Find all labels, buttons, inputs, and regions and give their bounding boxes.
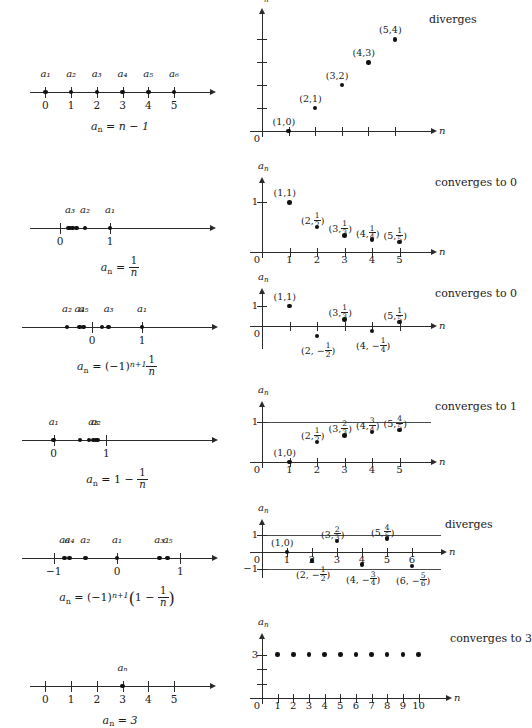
row-5-numberline: −101a₆a₄a₂a₁a₃a₅ xyxy=(22,558,212,559)
plot-point-label: (3,23) xyxy=(321,526,344,542)
number-line-tick-label: 1 xyxy=(94,447,118,459)
plot-x-tick-label: 1 xyxy=(279,254,301,265)
number-line-tick-label: 5 xyxy=(162,99,186,111)
plot-y-tick xyxy=(257,85,267,86)
plot-y-tick xyxy=(257,684,267,685)
number-line-point xyxy=(81,325,86,330)
number-line-tick xyxy=(174,681,175,692)
plot-point-label: (4,3) xyxy=(352,47,375,58)
y-axis-name: an xyxy=(258,384,269,397)
number-line-tick-label: 4 xyxy=(136,693,160,705)
plot-x-tick-label: 3 xyxy=(334,464,356,475)
plot-origin-label: 0 xyxy=(238,328,260,339)
plot-x-tick-label: 1 xyxy=(276,554,298,565)
y-axis-arrow-icon xyxy=(259,401,265,407)
plot-data-point xyxy=(340,83,345,88)
number-line-point xyxy=(95,90,100,95)
plot-data-point xyxy=(393,37,398,42)
plot-y-tick-label: 1 xyxy=(236,196,258,207)
number-line-arrow-icon xyxy=(210,89,216,95)
plot-y-tick xyxy=(257,422,267,423)
x-axis-arrow-icon xyxy=(431,128,437,134)
plot-y-tick xyxy=(257,655,267,656)
plot-origin-label: 0 xyxy=(238,254,260,265)
plot-point-label: (3,13) xyxy=(329,220,352,236)
number-line-point xyxy=(108,226,113,231)
number-line-point xyxy=(74,226,79,231)
number-line-tick-label: 0 xyxy=(80,334,104,346)
row-3-formula: an = (−1)n+11n xyxy=(0,355,237,377)
plot-data-point xyxy=(310,558,315,563)
plot-y-tick xyxy=(257,62,267,63)
row-6-verdict: converges to 3 xyxy=(450,632,532,645)
number-line-point-label: a₃ xyxy=(96,303,122,314)
x-axis-name: n xyxy=(449,546,455,557)
plot-point-label: (5,45) xyxy=(384,415,407,431)
plot-x-axis xyxy=(250,131,431,132)
plot-data-point xyxy=(287,304,292,309)
number-line-point-label: a₁ xyxy=(129,303,155,314)
x-axis-name: n xyxy=(439,246,445,257)
number-line-point-label: a₁ xyxy=(104,534,130,545)
plot-point-label: (4, −14) xyxy=(356,337,390,353)
number-line-point xyxy=(67,556,72,561)
plot-point-label: (2,1) xyxy=(299,93,322,104)
number-line-tick-label: 1 xyxy=(59,693,83,705)
number-line-point xyxy=(43,90,48,95)
plot-y-tick xyxy=(257,202,267,203)
y-axis-arrow-icon xyxy=(259,288,265,294)
number-line-point xyxy=(146,90,151,95)
plot-point-label: (2,12) xyxy=(301,427,324,443)
row-2-verdict: converges to 0 xyxy=(435,176,517,189)
plot-x-tick-label: 10 xyxy=(408,700,430,711)
plot-origin-label: 0 xyxy=(238,133,260,144)
x-axis-name: n xyxy=(439,456,445,467)
row-1-numberline: 012345a₁a₂a₃a₄a₅a₆ xyxy=(30,92,210,93)
plot-point-label: (4,14) xyxy=(356,225,379,241)
y-axis-name: an xyxy=(258,160,269,173)
number-line-point-label: a₅ xyxy=(71,303,97,314)
number-line-point-label: a₂ xyxy=(58,68,84,79)
y-axis-arrow-icon xyxy=(259,519,265,525)
plot-point-label: (4, −34) xyxy=(346,571,380,587)
plot-y-tick xyxy=(257,569,267,570)
plot-point-label: (5,15) xyxy=(384,307,407,323)
number-line-tick xyxy=(97,681,98,692)
number-line-point-label: a₂ xyxy=(72,204,98,215)
number-line-tick-label: 1 xyxy=(98,235,122,247)
plot-y-tick xyxy=(257,535,267,536)
number-line-tick xyxy=(60,223,61,234)
number-line-point-label: a₅ xyxy=(135,68,161,79)
plot-x-tick xyxy=(395,127,396,136)
row-6-numberline: 012345aₙ xyxy=(30,686,210,687)
number-line-tick xyxy=(54,553,55,564)
number-line-arrow-icon xyxy=(210,683,216,689)
number-line-point-label: a₁ xyxy=(41,416,67,427)
number-line-axis xyxy=(22,327,212,328)
number-line-arrow-icon xyxy=(212,324,218,330)
plot-x-axis xyxy=(250,698,446,699)
plot-data-point xyxy=(307,652,312,657)
plot-x-tick xyxy=(290,322,291,331)
number-line-tick-label: 0 xyxy=(42,447,66,459)
plot-data-point xyxy=(287,200,292,205)
plot-y-tick-label: 1 xyxy=(236,300,258,311)
number-line-tick xyxy=(148,681,149,692)
x-axis-arrow-icon xyxy=(431,323,437,329)
number-line-tick-label: 1 xyxy=(59,99,83,111)
number-line-axis xyxy=(30,228,210,229)
plot-x-tick-label: 5 xyxy=(389,464,411,475)
number-line-tick-label: 0 xyxy=(33,99,57,111)
row-1-verdict: diverges xyxy=(429,13,477,26)
number-line-point-label: a₂ xyxy=(72,534,98,545)
plot-x-tick-label: 3 xyxy=(326,554,348,565)
number-line-point-label: a₆ xyxy=(161,68,187,79)
number-line-arrow-icon xyxy=(210,225,216,231)
number-line-point xyxy=(120,684,125,689)
x-axis-arrow-icon xyxy=(431,459,437,465)
plot-y-tick-label: −1 xyxy=(236,563,258,574)
number-line-point xyxy=(157,556,162,561)
number-line-tick xyxy=(180,553,181,564)
number-line-point xyxy=(62,556,67,561)
plot-y-tick xyxy=(257,669,267,670)
